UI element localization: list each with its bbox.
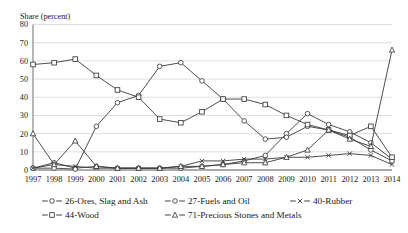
x-tick-label: 1997 — [25, 175, 42, 184]
chart-container: Share (percent) 01020304050607080 199719… — [0, 0, 408, 233]
x-tick-label: 2003 — [151, 175, 168, 184]
marker-square — [369, 124, 374, 129]
x-tick-label: 2005 — [194, 175, 211, 184]
marker-circle — [326, 122, 331, 127]
x-tick-label: 1998 — [46, 175, 63, 184]
x-tick-label: 2008 — [257, 175, 274, 184]
marker-square — [136, 95, 141, 100]
marker-square — [50, 213, 55, 218]
legend-label: 27-Fuels and Oil — [188, 196, 250, 206]
legend-label: 40-Rubber — [313, 196, 352, 206]
x-tick-label: 2002 — [130, 175, 147, 184]
marker-square — [115, 88, 120, 93]
y-tick-label: 60 — [20, 57, 28, 66]
marker-square — [390, 155, 395, 160]
y-tick-label: 10 — [20, 148, 28, 157]
marker-circle — [284, 135, 289, 140]
marker-circle — [173, 199, 178, 204]
y-tick-label: 20 — [20, 130, 28, 139]
marker-circle — [305, 111, 310, 116]
marker-circle — [263, 137, 268, 142]
marker-circle — [242, 119, 247, 124]
x-tick-label: 2013 — [363, 175, 380, 184]
marker-square — [242, 97, 247, 102]
legend-label: 44-Wood — [65, 210, 99, 220]
marker-square — [52, 60, 57, 65]
marker-circle — [157, 64, 162, 69]
x-tick-label: 2011 — [320, 175, 336, 184]
line-chart: Share (percent) 01020304050607080 199719… — [0, 0, 408, 233]
x-tick-label: 2000 — [88, 175, 105, 184]
marker-circle — [94, 124, 99, 129]
y-axis-ticks: 01020304050607080 — [20, 20, 28, 175]
x-tick-label: 2012 — [341, 175, 358, 184]
x-tick-label: 2010 — [299, 175, 316, 184]
legend-label: 71-Precious Stones and Metals — [188, 210, 302, 220]
marker-square — [263, 102, 268, 107]
marker-circle — [200, 79, 205, 84]
x-tick-label: 2004 — [172, 175, 190, 184]
y-tick-label: 50 — [20, 75, 28, 84]
marker-square — [31, 62, 36, 67]
legend-label: 26-Ores, Slag and Ash — [65, 196, 148, 206]
y-tick-label: 70 — [20, 39, 28, 48]
marker-square — [157, 117, 162, 122]
y-tick-label: 80 — [20, 20, 28, 29]
y-tick-label: 30 — [20, 111, 28, 120]
x-tick-label: 2006 — [215, 175, 232, 184]
marker-circle — [179, 60, 184, 65]
x-tick-label: 2014 — [384, 175, 402, 184]
marker-square — [284, 113, 289, 118]
x-tick-label: 2001 — [109, 175, 126, 184]
marker-square — [200, 110, 205, 115]
marker-square — [221, 97, 226, 102]
marker-circle — [115, 100, 120, 105]
x-tick-label: 2009 — [278, 175, 295, 184]
marker-square — [179, 120, 184, 125]
marker-square — [305, 122, 310, 127]
x-tick-label: 1999 — [67, 175, 84, 184]
marker-square — [94, 73, 99, 78]
marker-square — [73, 57, 78, 62]
x-tick-label: 2007 — [236, 175, 253, 184]
y-tick-label: 40 — [20, 93, 28, 102]
marker-circle — [50, 199, 55, 204]
